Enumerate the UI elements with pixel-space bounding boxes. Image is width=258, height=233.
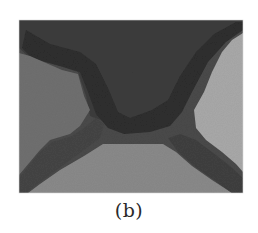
figure-panel-b: (b) [0,0,258,233]
figure-caption: (b) [0,199,258,221]
